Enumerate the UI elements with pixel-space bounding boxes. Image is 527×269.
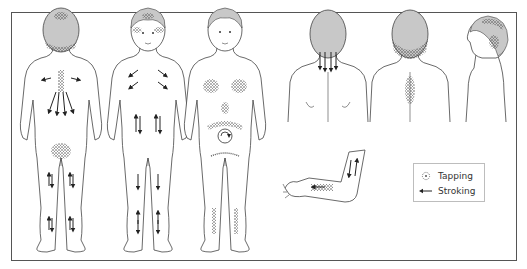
body-illustrations: [0, 0, 527, 269]
legend-item-tapping: Tapping: [414, 169, 484, 183]
legend-label-stroking: Stroking: [438, 186, 475, 196]
tapping-icon: [414, 171, 438, 181]
stroking-arrow-icon: [414, 188, 438, 194]
figure-head-profile: [466, 16, 508, 122]
figure-full-front-stroking: [107, 8, 188, 252]
figure-forearm: [283, 150, 365, 202]
legend-label-tapping: Tapping: [438, 171, 473, 181]
figure-full-front-tapping: [184, 8, 265, 252]
figure-full-back: [20, 8, 101, 252]
legend: Tapping Stroking: [413, 163, 485, 202]
figure-upper-back-tapping: [370, 10, 450, 122]
figure-upper-back-neck: [288, 10, 368, 122]
legend-item-stroking: Stroking: [414, 184, 484, 198]
